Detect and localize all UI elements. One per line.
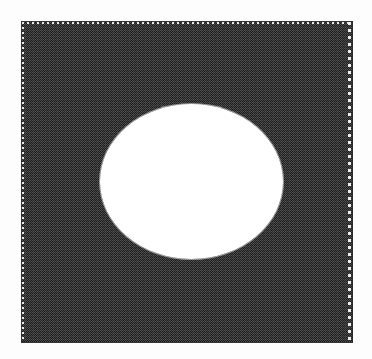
- dark-halftone-square: [21, 21, 353, 343]
- white-ellipse-void: [100, 104, 283, 259]
- dotted-border-right: [348, 22, 351, 342]
- dotted-border-left: [22, 22, 24, 342]
- dotted-border-top: [22, 22, 352, 24]
- figure-canvas: [0, 0, 372, 359]
